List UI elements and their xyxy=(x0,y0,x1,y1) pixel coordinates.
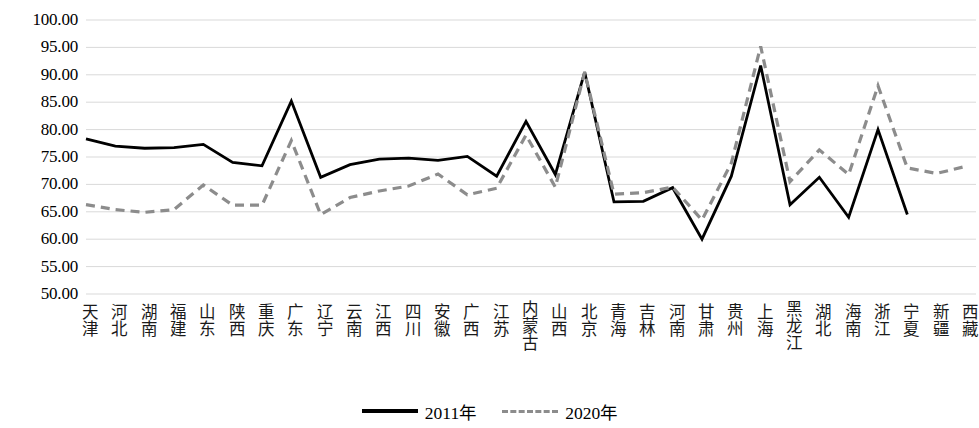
x-tick-label-辽宁: 辽宁 xyxy=(310,303,332,337)
x-tick-label-宁夏: 宁夏 xyxy=(896,303,918,337)
line-chart: 100.0095.0090.0085.0080.0075.0070.0065.0… xyxy=(0,0,979,428)
x-tick-label-江苏: 江苏 xyxy=(486,303,508,337)
x-tick-label-浙江: 浙江 xyxy=(867,303,889,337)
x-tick-label-广西: 广西 xyxy=(456,303,478,337)
x-tick-label-湖南: 湖南 xyxy=(134,303,156,337)
x-tick-label-北京: 北京 xyxy=(574,303,596,337)
x-tick-label-江西: 江西 xyxy=(368,303,390,337)
legend-swatch-solid-line-icon xyxy=(362,409,418,413)
x-tick-label-青海: 青海 xyxy=(603,303,625,337)
x-tick-label-贵州: 贵州 xyxy=(720,303,742,337)
x-tick-label-陕西: 陕西 xyxy=(222,303,244,337)
x-tick-label-四川: 四川 xyxy=(398,303,420,337)
x-tick-label-重庆: 重庆 xyxy=(251,303,273,337)
x-tick-label-广东: 广东 xyxy=(280,303,302,337)
x-tick-label-福建: 福建 xyxy=(163,303,185,337)
x-tick-label-西藏: 西藏 xyxy=(955,303,977,337)
x-tick-label-内蒙古: 内蒙古 xyxy=(515,300,537,351)
x-tick-label-海南: 海南 xyxy=(838,303,860,337)
legend-item-2011: 2011年 xyxy=(362,399,476,424)
x-tick-label-吉林: 吉林 xyxy=(632,303,654,337)
x-tick-label-安徽: 安徽 xyxy=(427,303,449,337)
legend-label-2011: 2011年 xyxy=(425,399,476,424)
x-tick-label-云南: 云南 xyxy=(339,303,361,337)
x-tick-label-湖北: 湖北 xyxy=(808,303,830,337)
x-tick-label-甘肃: 甘肃 xyxy=(691,303,713,337)
x-tick-label-新疆: 新疆 xyxy=(926,303,948,337)
x-tick-label-河北: 河北 xyxy=(104,303,126,337)
x-tick-label-山东: 山东 xyxy=(192,303,214,337)
x-tick-label-河南: 河南 xyxy=(662,303,684,337)
chart-legend: 2011年 2020年 xyxy=(0,396,979,426)
x-tick-label-黑龙江: 黑龙江 xyxy=(779,300,801,351)
legend-swatch-dashed-line-icon xyxy=(502,410,558,413)
legend-item-2020: 2020年 xyxy=(502,399,617,424)
x-tick-label-天津: 天津 xyxy=(75,303,97,337)
legend-label-2020: 2020年 xyxy=(565,399,617,424)
x-tick-label-上海: 上海 xyxy=(750,303,772,337)
x-tick-label-山西: 山西 xyxy=(544,303,566,337)
x-axis: 天津河北湖南福建山东陕西重庆广东辽宁云南江西四川安徽广西江苏内蒙古山西北京青海吉… xyxy=(0,0,979,428)
